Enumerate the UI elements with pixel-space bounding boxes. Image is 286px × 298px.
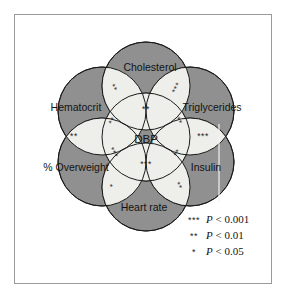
legend-stars-p001: *** [182,215,206,225]
legend-stars-p01: ** [182,231,206,241]
stars-dbp-heart-rate: *** [140,159,152,169]
legend-text-p001: P < 0.001 [206,213,249,225]
legend-item-p001: *** P < 0.001 [182,213,270,229]
significance-legend: *** P < 0.001 ** P < 0.01 * P < 0.05 [182,213,270,261]
label-triglycerides: Triglycerides [182,101,241,113]
label-overweight: % Overweight [43,161,108,173]
stars-dbp-hematocrit-overweight: ** [70,131,78,141]
label-insulin: Insulin [191,161,222,173]
legend-operator-p05: < [215,245,221,257]
venn-diagram-figure: Cholesterol Triglycerides Insulin Heart … [0,0,286,298]
stars-dbp-triglycerides-insulin: *** [197,131,209,141]
legend-text-p05: P < 0.05 [206,245,244,257]
legend-symbol-p001: P [206,213,213,225]
label-cholesterol: Cholesterol [123,61,176,73]
label-hematocrit: Hematocrit [51,101,102,113]
legend-symbol-p05: P [206,245,213,257]
legend-text-p01: P < 0.01 [206,229,244,241]
stars-dbp-cholesterol: ** [142,104,150,114]
legend-value-p05: 0.05 [224,245,243,257]
label-dbp: DBP [134,133,158,145]
label-heart-rate: Heart rate [121,201,168,213]
legend-symbol-p01: P [206,229,213,241]
legend-value-p01: 0.01 [224,229,243,241]
legend-item-p01: ** P < 0.01 [182,229,270,245]
legend-stars-p05: * [182,247,206,257]
legend-operator-p01: < [215,229,221,241]
legend-value-p001: 0.001 [224,213,249,225]
legend-item-p05: * P < 0.05 [182,245,270,261]
legend-operator-p001: < [215,213,221,225]
